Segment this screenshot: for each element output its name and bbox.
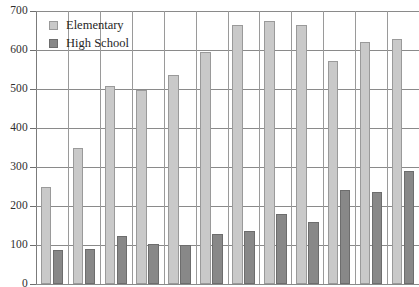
- y-axis-label-600: 600: [10, 44, 28, 56]
- bar-high-school-8: [276, 214, 287, 284]
- y-axis-label-100: 100: [10, 239, 28, 251]
- y-axis-tick-700: [30, 11, 36, 12]
- category-separator: [259, 11, 260, 284]
- legend-label-elementary: Elementary: [66, 17, 124, 34]
- bar-elementary-6: [200, 52, 211, 284]
- y-axis-label-400: 400: [10, 122, 28, 134]
- gridline-0: [36, 284, 419, 285]
- bar-high-school-9: [308, 222, 319, 284]
- chart-title-sliver: [95, 0, 325, 4]
- y-axis-label-700: 700: [10, 5, 28, 17]
- legend-swatch-icon-high-school: [49, 39, 58, 48]
- bar-high-school-1: [53, 250, 64, 284]
- bar-elementary-8: [264, 21, 275, 284]
- category-separator: [196, 11, 197, 284]
- bar-elementary-11: [360, 42, 371, 284]
- bar-high-school-5: [180, 245, 191, 284]
- bar-elementary-9: [296, 25, 307, 284]
- chart-legend: Elementary High School: [49, 17, 129, 53]
- bar-elementary-12: [392, 39, 403, 284]
- y-axis-tick-400: [30, 128, 36, 129]
- category-separator: [355, 11, 356, 284]
- y-axis-label-0: 0: [22, 278, 28, 287]
- y-axis-labels: 700 600 500 400 300 200 100 0: [0, 0, 36, 287]
- bar-high-school-11: [372, 192, 383, 284]
- y-axis-label-200: 200: [10, 200, 28, 212]
- category-separator: [164, 11, 165, 284]
- bar-elementary-7: [232, 25, 243, 284]
- y-axis-tick-500: [30, 89, 36, 90]
- legend-label-high-school: High School: [66, 35, 129, 52]
- bar-high-school-2: [85, 249, 96, 284]
- bar-elementary-3: [105, 86, 116, 284]
- bar-high-school-7: [244, 231, 255, 284]
- category-separator: [228, 11, 229, 284]
- y-axis-tick-600: [30, 50, 36, 51]
- bar-high-school-6: [212, 234, 223, 284]
- bar-high-school-10: [340, 190, 351, 284]
- bar-elementary-5: [168, 75, 179, 284]
- y-axis-label-500: 500: [10, 83, 28, 95]
- bar-chart: 700 600 500 400 300 200 100 0 Elementary…: [0, 0, 419, 287]
- y-axis-tick-0: [30, 284, 36, 285]
- category-separator: [323, 11, 324, 284]
- y-axis-label-300: 300: [10, 161, 28, 173]
- legend-item-high-school: High School: [49, 35, 129, 52]
- y-axis-tick-300: [30, 167, 36, 168]
- category-separator: [387, 11, 388, 284]
- bar-elementary-10: [328, 61, 339, 284]
- legend-item-elementary: Elementary: [49, 17, 129, 34]
- category-separator: [291, 11, 292, 284]
- bar-elementary-1: [41, 187, 52, 284]
- bar-high-school-12: [404, 171, 415, 284]
- y-axis-tick-200: [30, 206, 36, 207]
- category-separator: [132, 11, 133, 284]
- bar-elementary-4: [136, 90, 147, 284]
- bar-high-school-4: [148, 244, 159, 284]
- legend-swatch-icon-elementary: [49, 21, 58, 30]
- bar-elementary-2: [73, 148, 84, 285]
- y-axis-tick-100: [30, 245, 36, 246]
- bar-high-school-3: [117, 236, 128, 284]
